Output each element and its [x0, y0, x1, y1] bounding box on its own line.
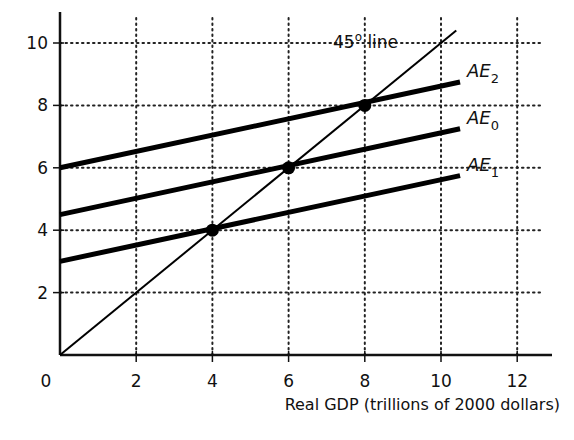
x-tick-label: 6 [283, 371, 294, 391]
y-tick-label: 2 [37, 283, 48, 303]
label-ae2: AE2 [466, 60, 499, 86]
y-tick-label: 6 [37, 158, 48, 178]
x-tick-label: 10 [430, 371, 452, 391]
series-ae2 [60, 82, 460, 168]
equilibrium-point [282, 161, 295, 174]
equilibrium-point [358, 99, 371, 112]
x-tick-label: 12 [506, 371, 528, 391]
x-tick-label: 8 [359, 371, 370, 391]
x-axis-label: Real GDP (trillions of 2000 dollars) [285, 395, 560, 414]
series-lines [60, 31, 460, 355]
label-ae0: AE0 [466, 107, 499, 133]
y-tick-label: 4 [37, 220, 48, 240]
series-ae1 [60, 176, 460, 262]
series-ae0 [60, 129, 460, 215]
y-tick-label: 8 [37, 95, 48, 115]
x-tick-label: 0 [41, 371, 52, 391]
ae-chart: 02468101224681045o lineAE2AE0AE1 Real GD… [0, 0, 574, 440]
y-tick-label: 10 [26, 33, 48, 53]
x-tick-label: 4 [207, 371, 218, 391]
series-45-line [60, 31, 456, 355]
x-tick-label: 2 [131, 371, 142, 391]
label-45-line: 45o line [333, 30, 398, 52]
label-ae1: AE1 [466, 154, 499, 180]
equilibrium-point [206, 224, 219, 237]
